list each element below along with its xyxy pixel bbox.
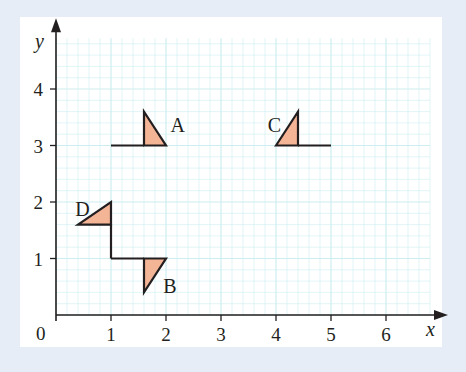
x-axis-label: x: [425, 318, 435, 340]
x-tick-label: 4: [271, 324, 281, 345]
x-tick-label: 1: [106, 324, 116, 345]
x-axis-arrow-icon: [434, 310, 448, 320]
shape-label: C: [268, 114, 281, 136]
x-tick-label: 3: [216, 324, 226, 345]
x-tick-label: 5: [326, 324, 336, 345]
shape-label: B: [163, 275, 176, 297]
shape-label: D: [75, 198, 89, 220]
shapes: ABCD: [75, 112, 331, 297]
grid-lines: [56, 38, 430, 315]
y-axis-arrow-icon: [51, 18, 61, 32]
shape-b: B: [111, 259, 177, 297]
shape-d: D: [75, 198, 111, 258]
shape-label: A: [170, 114, 185, 136]
coordinate-grid: 1234561234 ABCD y x 0: [0, 0, 466, 372]
y-tick-label: 1: [34, 249, 44, 270]
y-axis-label: y: [33, 30, 44, 53]
y-tick-label: 2: [34, 192, 44, 213]
shape-c: C: [268, 112, 331, 146]
origin-label: 0: [36, 323, 46, 344]
x-tick-label: 6: [381, 324, 391, 345]
y-tick-label: 3: [34, 136, 44, 157]
y-tick-label: 4: [34, 79, 44, 100]
x-tick-label: 2: [161, 324, 171, 345]
